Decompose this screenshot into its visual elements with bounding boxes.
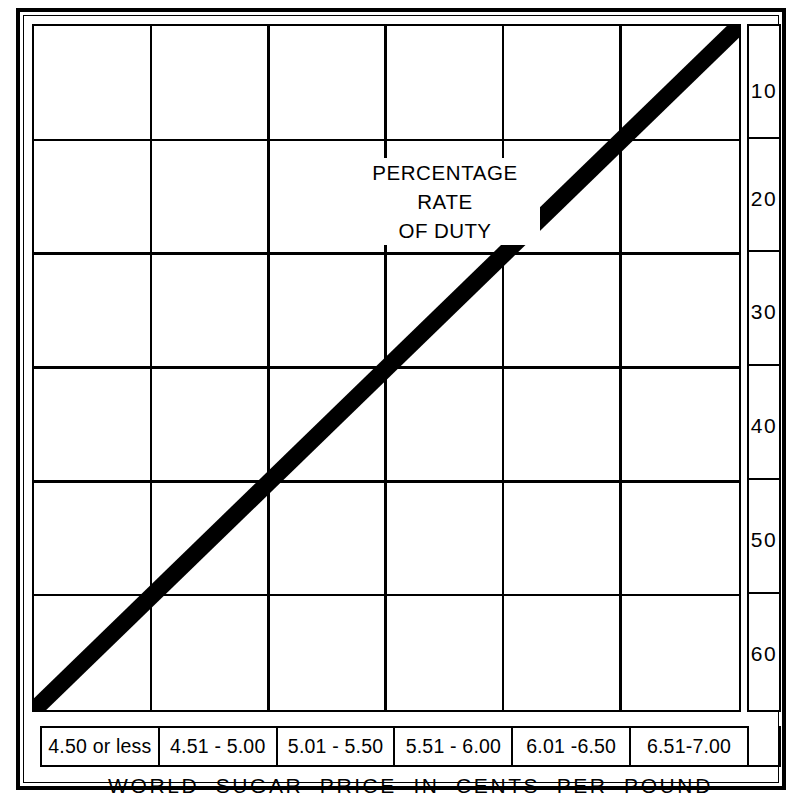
axis-cell: 40 <box>749 366 779 480</box>
axis-tick-label-10: 10 <box>749 79 779 103</box>
axis-tick-label-30: 30 <box>749 300 779 324</box>
chart-body: PERCENTAGE RATE OF DUTY 10 20 30 40 <box>32 24 781 718</box>
axis-tick-label-20: 20 <box>749 187 779 211</box>
horizontal-gridline <box>34 252 739 255</box>
category-label-5: 6.01 -6.50 <box>513 728 631 765</box>
horizontal-gridline <box>34 594 739 597</box>
x-axis-title: WORLD SUGAR PRICE IN CENTS PER POUND <box>40 767 781 805</box>
axis-tick-label-60: 60 <box>749 642 779 666</box>
plot-annotation: PERCENTAGE RATE OF DUTY <box>350 158 540 245</box>
axis-cell: 20 <box>749 139 779 253</box>
horizontal-gridline <box>34 139 739 142</box>
plot-area: PERCENTAGE RATE OF DUTY <box>32 24 741 712</box>
category-label-4: 5.51 - 6.00 <box>395 728 513 765</box>
axis-tick-label-40: 40 <box>749 414 779 438</box>
chart-figure: PERCENTAGE RATE OF DUTY 10 20 30 40 <box>16 8 786 790</box>
axis-cell: 50 <box>749 480 779 594</box>
category-label-1: 4.50 or less <box>42 728 160 765</box>
axis-tick-label-50: 50 <box>749 528 779 552</box>
horizontal-gridline <box>34 480 739 483</box>
category-axis-spacer <box>747 726 781 767</box>
value-axis: 10 20 30 40 50 60 <box>747 24 781 712</box>
axis-cell: 30 <box>749 252 779 366</box>
category-label-3: 5.01 - 5.50 <box>278 728 396 765</box>
annotation-line-1: PERCENTAGE <box>350 158 540 187</box>
category-label-6: 6.51-7.00 <box>631 728 747 765</box>
axis-cell: 10 <box>749 26 779 139</box>
category-axis-labels: 4.50 or less 4.51 - 5.00 5.01 - 5.50 5.5… <box>40 726 749 767</box>
chart-inner-border: PERCENTAGE RATE OF DUTY 10 20 30 40 <box>23 15 779 783</box>
axis-cell: 60 <box>749 594 779 709</box>
annotation-line-2: RATE <box>350 187 540 216</box>
horizontal-gridline <box>34 366 739 369</box>
category-label-2: 4.51 - 5.00 <box>160 728 278 765</box>
annotation-line-3: OF DUTY <box>350 216 540 245</box>
